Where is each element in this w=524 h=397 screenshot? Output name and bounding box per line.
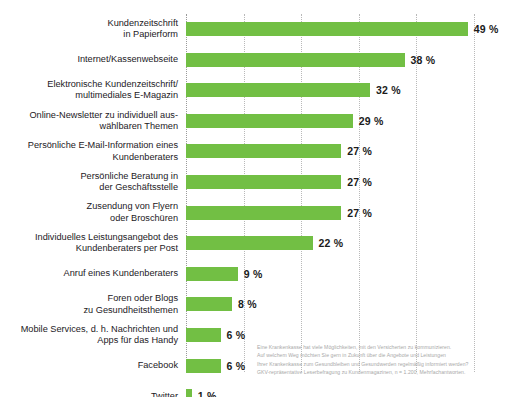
- bar-value-label: 38 %: [411, 53, 436, 67]
- bar-row: 29 %: [186, 106, 524, 137]
- category-label-line: Anruf eines Kundenberaters: [64, 268, 178, 280]
- bar: [186, 114, 353, 128]
- category-label-line: Persönliche Beratung in: [80, 171, 178, 183]
- bar-group: 1 %: [186, 389, 216, 397]
- category-label-line: wählbaren Themen: [29, 121, 178, 133]
- bar: [186, 83, 370, 97]
- category-label: Facebook: [0, 351, 178, 382]
- bar: [186, 359, 221, 373]
- bar-value-label: 29 %: [359, 114, 384, 128]
- bar-row: 22 %: [186, 228, 524, 259]
- bar: [186, 144, 341, 158]
- bar-row: 9 %: [186, 259, 524, 290]
- bar-group: 8 %: [186, 297, 257, 311]
- category-label-line: Facebook: [138, 360, 178, 372]
- category-label: Online-Newsletter zu individuell aus-wäh…: [0, 106, 178, 137]
- bar: [186, 389, 192, 397]
- footnote-line: Auf welchem Weg möchten Sie gern in Zuku…: [257, 351, 519, 359]
- bar-group: 27 %: [186, 175, 372, 189]
- bar-group: 27 %: [186, 144, 372, 158]
- bar-group: 27 %: [186, 206, 372, 220]
- bar-row: 1 %: [186, 381, 524, 397]
- category-label: Zusendung von Flyernoder Broschüren: [0, 198, 178, 229]
- category-label: Individuelles Leistungsangebot desKunden…: [0, 228, 178, 259]
- bar-row: 49 %: [186, 14, 524, 45]
- category-label-line: oder Broschüren: [87, 213, 178, 225]
- category-label: Mobile Services, d. h. Nachrichten undAp…: [0, 320, 178, 351]
- bar: [186, 22, 468, 36]
- category-label-line: in Papierform: [108, 29, 178, 41]
- category-label-line: der Geschäftsstelle: [80, 182, 178, 194]
- category-label-line: Elektronische Kundenzeitschrift/: [47, 79, 178, 91]
- category-label: Elektronische Kundenzeitschrift/multimed…: [0, 75, 178, 106]
- bar-value-label: 1 %: [198, 389, 217, 397]
- footnote-line: Eine Krankenkasse hat viele Möglichkeite…: [257, 343, 519, 351]
- category-label: Kundenzeitschriftin Papierform: [0, 14, 178, 45]
- category-label-line: multimediales E-Magazin: [47, 90, 178, 102]
- category-label: Twitter: [0, 381, 178, 397]
- footnote-line: Ihrer Krankenkasse zum Gesundbleiben und…: [257, 360, 519, 368]
- bar-value-label: 9 %: [244, 267, 263, 281]
- bar-row: 32 %: [186, 75, 524, 106]
- category-label: Persönliche E-Mail-Information einesKund…: [0, 136, 178, 167]
- bar-group: 29 %: [186, 114, 383, 128]
- category-label: Foren oder Blogszu Gesundheitsthemen: [0, 289, 178, 320]
- bar-rows: 49 %38 %32 %29 %27 %27 %27 %22 %9 %8 %6 …: [186, 14, 524, 397]
- bar-row: 8 %: [186, 289, 524, 320]
- category-label-line: Apps für das Handy: [21, 335, 178, 347]
- bar: [186, 206, 341, 220]
- category-label-line: Twitter: [151, 391, 178, 397]
- bar-value-label: 8 %: [238, 297, 257, 311]
- category-label-line: Foren oder Blogs: [84, 293, 179, 305]
- bar-value-label: 32 %: [376, 83, 401, 97]
- bar-value-label: 27 %: [347, 144, 372, 158]
- bar: [186, 297, 232, 311]
- bar-group: 6 %: [186, 359, 245, 373]
- category-label-line: Online-Newsletter zu individuell aus-: [29, 110, 178, 122]
- category-label-line: Internet/Kassenwebseite: [77, 54, 178, 66]
- bar-group: 49 %: [186, 22, 498, 36]
- category-label: Persönliche Beratung inder Geschäftsstel…: [0, 167, 178, 198]
- bar-chart: Kundenzeitschriftin PapierformInternet/K…: [0, 0, 524, 397]
- bar: [186, 236, 313, 250]
- category-label-line: zu Gesundheitsthemen: [84, 305, 179, 317]
- bar: [186, 175, 341, 189]
- bar-row: 27 %: [186, 136, 524, 167]
- category-label-line: Kundenberaters per Post: [35, 243, 178, 255]
- bar: [186, 267, 238, 281]
- bar-value-label: 6 %: [227, 328, 246, 342]
- bar-value-label: 27 %: [347, 175, 372, 189]
- category-label: Internet/Kassenwebseite: [0, 45, 178, 76]
- bar-group: 9 %: [186, 267, 262, 281]
- category-axis-labels: Kundenzeitschriftin PapierformInternet/K…: [0, 14, 178, 372]
- bar-group: 22 %: [186, 236, 343, 250]
- bar: [186, 53, 405, 67]
- bar: [186, 328, 221, 342]
- category-label-line: Persönliche E-Mail-Information eines: [28, 140, 178, 152]
- category-label-line: Mobile Services, d. h. Nachrichten und: [21, 324, 178, 336]
- bar-group: 6 %: [186, 328, 245, 342]
- category-label-line: Kundenzeitschrift: [108, 18, 178, 30]
- chart-footnote: Eine Krankenkasse hat viele Möglichkeite…: [257, 343, 519, 376]
- bar-value-label: 49 %: [474, 22, 499, 36]
- category-label: Anruf eines Kundenberaters: [0, 259, 178, 290]
- category-label-line: Kundenberaters: [28, 152, 178, 164]
- category-label-line: Individuelles Leistungsangebot des: [35, 232, 178, 244]
- bar-group: 32 %: [186, 83, 401, 97]
- footnote-line: GKV-repräsentative Leserbefragung zu Kun…: [257, 368, 519, 376]
- plot-area: 49 %38 %32 %29 %27 %27 %27 %22 %9 %8 %6 …: [186, 14, 524, 372]
- bar-row: 38 %: [186, 45, 524, 76]
- category-label-line: Zusendung von Flyern: [87, 201, 178, 213]
- bar-group: 38 %: [186, 53, 435, 67]
- bar-value-label: 6 %: [227, 359, 246, 373]
- bar-row: 27 %: [186, 167, 524, 198]
- bar-row: 27 %: [186, 198, 524, 229]
- bar-value-label: 22 %: [319, 236, 344, 250]
- bar-value-label: 27 %: [347, 206, 372, 220]
